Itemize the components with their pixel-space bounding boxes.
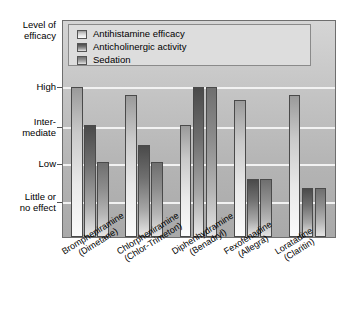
y-axis: Level of efficacy High Inter- mediate Lo… — [0, 0, 62, 260]
bar-1-1 — [138, 145, 150, 237]
legend-label-anticholinergic-activity: Anticholinergic activity — [93, 42, 186, 52]
y-tick-high: High — [36, 82, 56, 93]
y-tick-low: Low — [39, 159, 56, 170]
legend-item-sedation[interactable]: Sedation — [77, 54, 310, 66]
bar-3-0 — [234, 100, 246, 237]
legend-label-sedation: Sedation — [93, 55, 131, 65]
bar-4-0 — [289, 95, 301, 238]
bar-1-0 — [125, 95, 137, 238]
y-tick-intermediate: Inter- mediate — [22, 117, 56, 138]
legend-swatch-icon-antihistamine-efficacy — [77, 30, 87, 39]
legend-item-anticholinergic-activity[interactable]: Anticholinergic activity — [77, 41, 310, 53]
legend-swatch-icon-anticholinergic-activity — [77, 43, 87, 52]
legend-swatch-icon-sedation — [77, 56, 87, 65]
bar-4-2 — [315, 188, 327, 237]
legend-item-antihistamine-efficacy[interactable]: Antihistamine efficacy — [77, 28, 310, 40]
legend: Antihistamine efficacy Anticholinergic a… — [68, 24, 311, 66]
bar-0-1 — [84, 125, 96, 238]
chart-root: Level of efficacy High Inter- mediate Lo… — [0, 0, 349, 316]
x-axis: Brompheniramine (Dimetane) Chlorpheniram… — [0, 238, 349, 316]
legend-label-antihistamine-efficacy: Antihistamine efficacy — [93, 29, 185, 39]
bar-2-1 — [193, 87, 205, 237]
bar-2-2 — [206, 87, 218, 237]
y-axis-title: Level of efficacy — [23, 20, 56, 41]
bar-0-0 — [71, 87, 83, 237]
y-tick-little-or-no-effect: Little or no effect — [20, 192, 56, 213]
